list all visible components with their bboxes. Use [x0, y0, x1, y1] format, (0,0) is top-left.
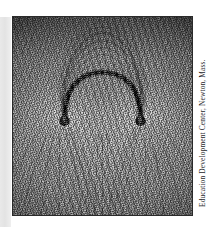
photo-credit-text: Education Development Center, Newton, Ma… — [198, 59, 205, 207]
scanned-book-page: Education Development Center, Newton, Ma… — [0, 0, 213, 227]
photograph-image-area — [13, 17, 192, 215]
iron-filings-grain-layer-2 — [13, 17, 192, 215]
page-gutter-strip — [0, 0, 11, 227]
photo-credit: Education Development Center, Newton, Ma… — [193, 16, 213, 216]
page-gutter-strip-top-mask — [0, 0, 11, 17]
figure-photograph — [12, 16, 193, 216]
